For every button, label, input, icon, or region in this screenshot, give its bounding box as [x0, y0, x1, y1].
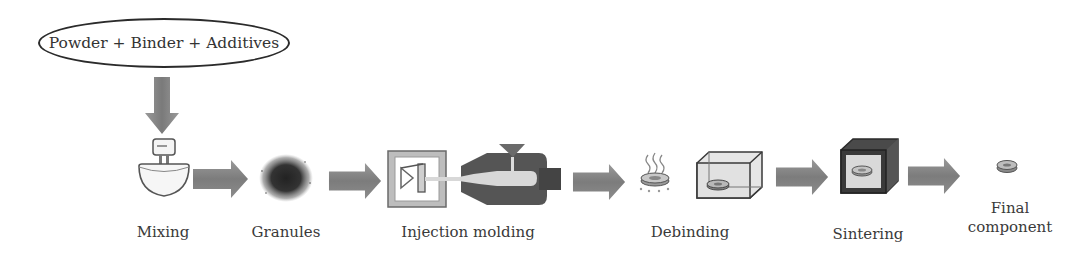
input-materials-label: Powder + Binder + Additives: [49, 34, 280, 52]
step-label-final-component: Final component: [962, 199, 1058, 237]
mixer-bowl-icon: [136, 138, 192, 200]
debinding-part-icon: [638, 153, 676, 195]
input-materials-oval: Powder + Binder + Additives: [38, 18, 290, 68]
sintering-furnace-icon: [840, 138, 900, 194]
flow-arrow-icon: [193, 160, 249, 198]
down-arrow-icon: [144, 77, 180, 135]
debinding-furnace-icon: [696, 151, 764, 199]
step-label-granules: Granules: [240, 223, 332, 241]
flow-arrow-icon: [775, 159, 830, 195]
step-label-mixing: Mixing: [125, 223, 201, 241]
step-label-injection-molding: Injection molding: [388, 223, 548, 241]
granules-icon: [258, 153, 314, 203]
step-label-final-line1: Final: [962, 199, 1058, 218]
final-part-icon: [996, 158, 1018, 174]
flow-arrow-icon: [572, 164, 627, 200]
injection-molding-machine-icon: [387, 144, 567, 214]
step-label-debinding: Debinding: [640, 223, 740, 241]
step-label-sintering: Sintering: [822, 225, 914, 243]
flow-arrow-icon: [328, 163, 383, 199]
flow-arrow-icon: [907, 158, 962, 194]
step-label-final-line2: component: [962, 218, 1058, 237]
